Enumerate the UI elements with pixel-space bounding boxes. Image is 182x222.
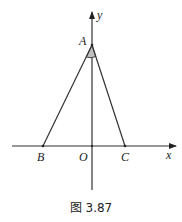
segment-ab — [43, 45, 92, 146]
label-b: B — [37, 150, 45, 164]
label-c: C — [121, 150, 130, 164]
label-y: y — [96, 8, 103, 22]
segment-ac — [92, 45, 125, 146]
label-o: O — [79, 150, 88, 164]
label-a: A — [78, 34, 87, 48]
figure-caption: 图 3.87 — [70, 201, 113, 215]
point-a — [91, 44, 94, 47]
point-b — [42, 145, 45, 148]
point-o — [91, 145, 93, 147]
triangle-diagram: y x A B O C 图 3.87 — [0, 0, 182, 222]
label-x: x — [165, 148, 172, 162]
point-c — [124, 145, 127, 148]
